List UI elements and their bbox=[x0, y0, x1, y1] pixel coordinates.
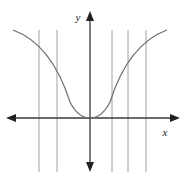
figure-background bbox=[0, 0, 187, 181]
coordinate-plane-svg: y x bbox=[0, 0, 187, 181]
graph-figure: y x bbox=[0, 0, 187, 181]
x-axis-label: x bbox=[162, 126, 168, 138]
y-axis-label: y bbox=[75, 11, 81, 23]
